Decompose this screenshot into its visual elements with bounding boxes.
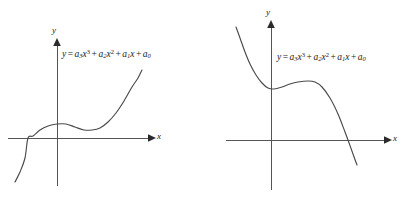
y-axis-label-left: y [52, 26, 56, 35]
cubic-curve-left [15, 70, 142, 182]
y-axis-arrowhead-right [267, 20, 275, 28]
chart-canvas-right [204, 0, 407, 197]
y-axis-label-right: y [266, 8, 270, 17]
chart-panel-left: x y y=a3x3+a2x2+a1x+a0 [0, 0, 204, 197]
x-axis-arrowhead-right [384, 136, 392, 144]
figure-root: x y y=a3x3+a2x2+a1x+a0 x y y=a3x3+a2x2+a… [0, 0, 407, 197]
x-axis-arrowhead-left [148, 134, 156, 142]
chart-panel-right: x y y=a3x3+a2x2+a1x+a0 [204, 0, 407, 197]
chart-canvas-left [0, 0, 204, 197]
cubic-curve-right [236, 27, 357, 165]
x-axis-label-left: x [157, 132, 161, 141]
y-axis-arrowhead-left [53, 38, 61, 46]
equation-label-left: y=a3x3+a2x2+a1x+a0 [62, 50, 151, 60]
equation-label-right: y=a3x3+a2x2+a1x+a0 [277, 53, 366, 63]
x-axis-label-right: x [393, 134, 397, 143]
